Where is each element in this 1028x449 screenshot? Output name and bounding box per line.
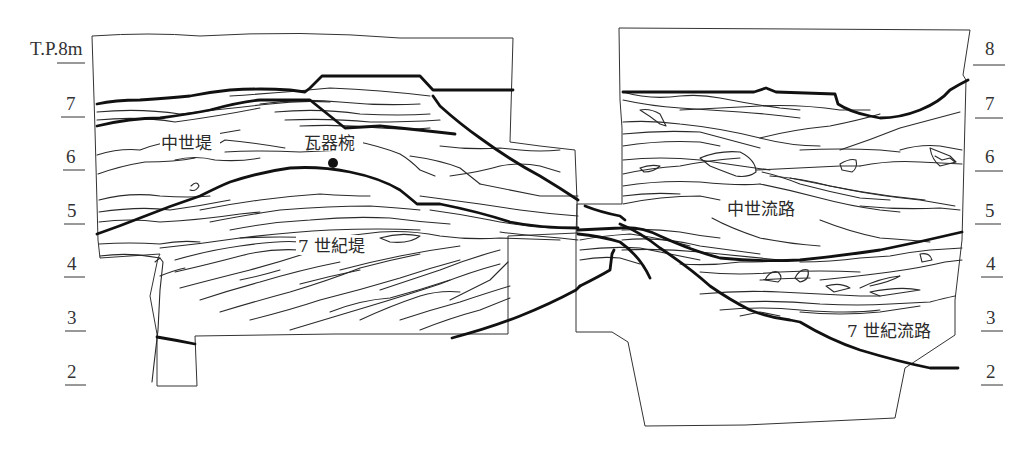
scale-label-2: 2: [67, 361, 77, 382]
scale-label-4: 4: [67, 253, 77, 274]
label-medieval-channel: 中世流路: [727, 199, 795, 219]
scale-label-7: 7: [66, 93, 76, 114]
scale-label-6: 6: [66, 146, 76, 167]
cross-section-diagram: T.P.8m 7 6 5 4 3 2 8 7 6 5 4 3 2: [0, 0, 1028, 449]
right-elevation-scale: 8 7 6 5 4 3 2: [973, 38, 1005, 385]
scale-label-3: 3: [986, 307, 996, 328]
scale-label-tp8m: T.P.8m: [30, 38, 83, 59]
scale-label-5: 5: [67, 200, 77, 221]
label-medieval-embankment: 中世堤: [161, 133, 212, 153]
label-earthenware-bowl: 瓦器椀: [304, 133, 355, 153]
label-7th-century-channel: 7 世紀流路: [847, 321, 931, 341]
scale-label-6: 6: [985, 146, 995, 167]
scale-label-8: 8: [985, 38, 995, 59]
earthenware-bowl-marker: [328, 158, 338, 168]
left-elevation-scale: T.P.8m 7 6 5 4 3 2: [30, 38, 86, 385]
scale-label-5: 5: [985, 200, 995, 221]
scale-label-2: 2: [986, 361, 996, 382]
scale-label-3: 3: [67, 307, 77, 328]
layer-labels: 中世堤 瓦器椀 7 世紀堤 中世流路 7 世紀流路: [160, 131, 945, 341]
label-7th-century-embankment: 7 世紀堤: [298, 236, 365, 256]
channel-base-line: [157, 250, 614, 344]
scale-label-7: 7: [985, 93, 995, 114]
scale-label-4: 4: [986, 253, 996, 274]
